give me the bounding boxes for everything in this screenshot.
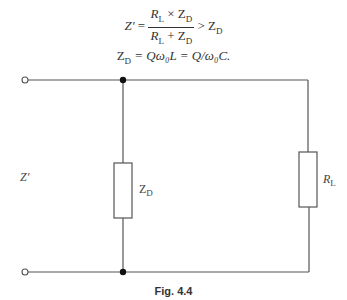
input-terminal-bottom (22, 269, 28, 275)
zd-label: ZD (139, 182, 153, 198)
junction-dot-bottom (120, 269, 126, 275)
zd-resistor (114, 163, 132, 218)
junction-dot-top (120, 77, 126, 83)
rl-resistor (299, 152, 317, 207)
input-terminal-top (22, 77, 28, 83)
rl-label: RL (323, 172, 336, 188)
input-impedance-label: Z′ (20, 170, 29, 185)
circuit-diagram (0, 0, 347, 300)
figure-caption: Fig. 4.4 (0, 285, 347, 297)
rl-label-sub: L (330, 178, 336, 188)
zd-label-sub: D (146, 188, 153, 198)
